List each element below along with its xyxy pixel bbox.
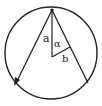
label-a: a xyxy=(43,32,50,45)
label-alpha: α xyxy=(54,38,61,49)
label-b: b xyxy=(62,53,68,64)
left-chord xyxy=(16,10,52,83)
top-vertex xyxy=(50,8,53,11)
circle xyxy=(5,7,97,99)
circle-chord-diagram: a α b xyxy=(0,0,102,106)
